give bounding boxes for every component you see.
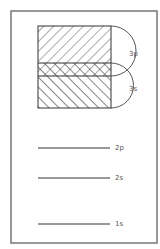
label-2s: 2s [115,174,123,182]
label-3p: 3p [129,50,138,58]
energy-band-diagram: 3p 3s 2p 2s 1s [0,0,160,249]
label-2p: 2p [115,144,124,152]
band-3s [38,63,111,108]
label-3s: 3s [129,85,137,93]
label-1s: 1s [115,220,123,228]
